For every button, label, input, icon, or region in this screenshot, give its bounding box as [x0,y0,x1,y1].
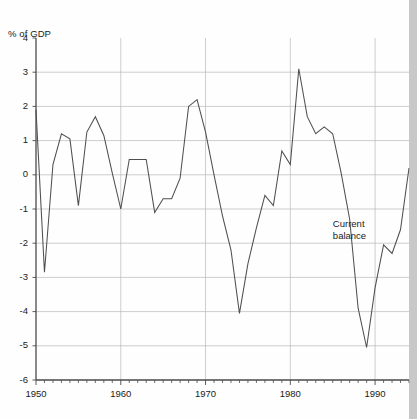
annotation-line-2: balance [333,230,366,243]
y-tick-label: 3 [8,66,28,77]
y-tick-label: 2 [8,100,28,111]
y-tick-label: -4 [8,305,28,316]
annotation-line-1: Current [333,218,366,231]
y-tick-label: 0 [8,168,28,179]
current-balance-line [36,69,409,348]
x-tick-label: 1990 [357,388,393,399]
x-tick-label: 1960 [103,388,139,399]
chart-plot-area [0,0,417,419]
y-tick-label: -1 [8,203,28,214]
y-tick-label: 1 [8,134,28,145]
x-tick-label: 1980 [272,388,308,399]
y-tick-label: -6 [8,374,28,385]
gridlines [36,72,409,346]
current-balance-annotation: Current balance [333,218,366,243]
y-tick-label: -5 [8,339,28,350]
x-tick-label: 1970 [188,388,224,399]
page-edge-shadow [409,0,417,419]
x-tick-label: 1950 [18,388,54,399]
y-tick-label: 4 [8,32,28,43]
x-axis-minor-ticks [36,380,409,385]
chart-container: % of GDP 43210-1-2-3-4-5-6 1950196019701… [0,0,417,419]
y-tick-label: -2 [8,237,28,248]
y-tick-label: -3 [8,271,28,282]
